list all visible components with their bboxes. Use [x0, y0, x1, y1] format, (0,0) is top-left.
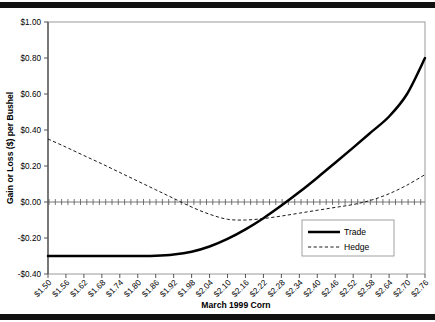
x-tick-label: $1.92 — [158, 278, 179, 299]
bottom-rule-divider — [0, 314, 435, 320]
x-tick-label: $1.80 — [122, 278, 143, 299]
y-tick-label: -$0.40 — [18, 270, 42, 279]
x-tick-label: $1.62 — [68, 278, 89, 299]
legend-label-trade: Trade — [344, 227, 366, 237]
x-tick-label: $2.52 — [338, 278, 359, 299]
x-tick-label: $2.70 — [392, 278, 413, 299]
x-tick-label: $2.04 — [194, 278, 215, 299]
x-tick-label: $1.98 — [176, 278, 197, 299]
y-tick-label: $0.20 — [21, 162, 42, 171]
x-tick-label: $2.34 — [284, 278, 305, 299]
x-tick-label: $2.22 — [248, 278, 269, 299]
x-axis-title: March 1999 Corn — [201, 300, 270, 310]
x-tick-label: $2.40 — [302, 278, 323, 299]
y-tick-label: $0.80 — [21, 54, 42, 63]
chart-legend: Trade Hedge — [302, 220, 394, 256]
x-tick-label: $1.74 — [104, 278, 125, 299]
x-axis-ticks — [48, 274, 425, 278]
x-tick-label: $2.76 — [410, 278, 431, 299]
y-tick-label: $1.00 — [21, 18, 42, 27]
x-tick-label: $2.58 — [356, 278, 377, 299]
y-axis-tick-labels: $1.00$0.80$0.60$0.40$0.20$0.00-$0.20-$0.… — [18, 18, 42, 279]
legend-label-hedge: Hedge — [344, 242, 370, 252]
x-tick-label: $1.86 — [140, 278, 161, 299]
y-tick-label: -$0.20 — [18, 234, 42, 243]
x-tick-label: $2.10 — [212, 278, 233, 299]
line-chart: $1.00$0.80$0.60$0.40$0.20$0.00-$0.20-$0.… — [0, 8, 435, 314]
x-axis-tick-labels: $1.50$1.56$1.62$1.68$1.74$1.80$1.86$1.92… — [33, 278, 431, 299]
x-tick-label: $1.68 — [86, 278, 107, 299]
y-tick-label: $0.60 — [21, 90, 42, 99]
x-tick-label: $1.56 — [51, 278, 72, 299]
x-tick-label: $1.50 — [33, 278, 54, 299]
x-tick-label: $2.28 — [266, 278, 287, 299]
y-tick-label: $0.00 — [21, 198, 42, 207]
figure-container: $1.00$0.80$0.60$0.40$0.20$0.00-$0.20-$0.… — [0, 0, 435, 322]
y-tick-label: $0.40 — [21, 126, 42, 135]
y-axis-title: Gain or Loss ($) per Bushel — [5, 92, 15, 204]
x-tick-label: $2.46 — [320, 278, 341, 299]
x-tick-label: $2.64 — [374, 278, 395, 299]
x-tick-label: $2.16 — [230, 278, 251, 299]
